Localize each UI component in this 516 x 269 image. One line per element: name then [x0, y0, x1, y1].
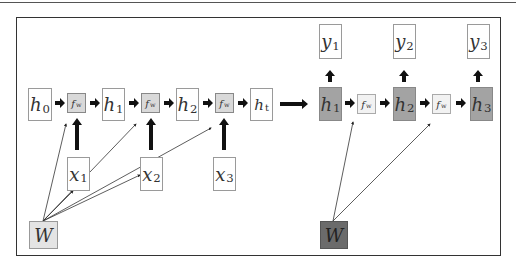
weight-arrows-right	[333, 122, 430, 221]
output-arrows	[325, 70, 483, 82]
sub: w	[224, 101, 230, 109]
input-x2: x2	[140, 157, 163, 191]
connector-layer	[0, 0, 516, 269]
hidden-state-h1: h1	[102, 88, 125, 121]
var: f	[436, 99, 440, 110]
sub: 0	[43, 102, 50, 116]
var: h	[471, 94, 483, 115]
sub: 1	[80, 171, 87, 185]
var: x	[69, 164, 79, 185]
var: h	[394, 94, 406, 115]
var: y	[395, 31, 405, 52]
var: W	[34, 225, 53, 246]
input-x1: x1	[67, 157, 90, 191]
sub: 3	[226, 171, 233, 185]
sub: 1	[332, 39, 339, 53]
sub: t	[265, 102, 269, 113]
input-arrows	[72, 118, 229, 150]
var: x	[215, 164, 225, 185]
sub: 1	[116, 102, 123, 116]
function-fw-r1: fw	[357, 94, 376, 114]
sub: 2	[153, 171, 160, 185]
var: h	[177, 94, 189, 115]
function-fw-3: fw	[215, 93, 234, 113]
output-y3: y3	[467, 24, 490, 59]
hidden-state-h0: h0	[28, 88, 52, 121]
hidden-state-h3-dark: h3	[470, 87, 493, 121]
function-fw-1: fw	[67, 93, 86, 113]
hidden-state-h2-dark: h2	[393, 87, 416, 121]
sub: 2	[407, 101, 414, 115]
var: h	[103, 94, 115, 115]
weight-w-dark: W	[320, 221, 348, 249]
function-fw-2: fw	[141, 93, 160, 113]
var: y	[469, 31, 479, 52]
var: h	[254, 96, 264, 114]
var: x	[142, 164, 152, 185]
var: f	[145, 98, 149, 109]
sub: w	[76, 101, 82, 109]
var: h	[320, 94, 332, 115]
var: f	[71, 98, 75, 109]
sub: 3	[480, 39, 487, 53]
sub: w	[441, 102, 447, 110]
var: f	[219, 98, 223, 109]
weight-w-shared: W	[29, 221, 58, 249]
sub: 1	[333, 101, 340, 115]
hidden-state-h1-dark: h1	[319, 87, 342, 121]
sub: w	[150, 101, 156, 109]
output-y2: y2	[393, 24, 416, 59]
input-x3: x3	[213, 157, 236, 191]
hidden-state-ht: ht	[250, 88, 273, 121]
var: f	[361, 99, 365, 110]
sub: w	[366, 102, 372, 110]
sub: 2	[190, 102, 197, 116]
var: W	[325, 225, 344, 246]
output-y1: y1	[319, 24, 342, 59]
var: h	[30, 94, 42, 115]
var: y	[321, 31, 331, 52]
function-fw-r2: fw	[432, 94, 451, 114]
sub: 3	[484, 101, 491, 115]
hidden-state-h2: h2	[176, 88, 199, 121]
sub: 2	[406, 39, 413, 53]
